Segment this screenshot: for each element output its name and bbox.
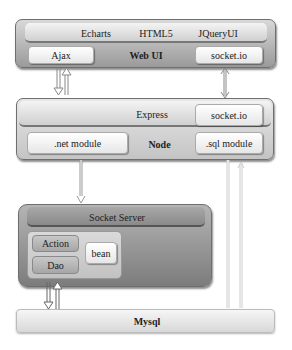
tech-html5: HTML5 xyxy=(131,24,181,42)
node-layer: Express socket.io .net module Node .sql … xyxy=(16,98,274,160)
web-ui-layer: Echarts HTML5 JQueryUI Ajax Web UI socke… xyxy=(15,19,276,68)
mysql-title: Mysql xyxy=(117,312,177,330)
mysql-layer: Mysql xyxy=(16,309,275,333)
sql-module-box: .sql module xyxy=(195,132,263,154)
socket-server-title: Socket Server xyxy=(69,208,165,226)
sql-mysql-arrows xyxy=(222,160,246,310)
socket-server-layer: Socket Server Action Dao bean xyxy=(18,204,212,287)
bean-box: bean xyxy=(85,242,117,264)
web-ui-title: Web UI xyxy=(116,46,176,64)
dao-box: Dao xyxy=(32,256,79,274)
ajax-express-arrows xyxy=(50,68,74,96)
net-to-socket-server-arrow xyxy=(74,160,88,204)
express-label: Express xyxy=(122,105,182,123)
ajax-box: Ajax xyxy=(28,46,94,64)
node-socketio-box: socket.io xyxy=(195,104,263,126)
dao-mysql-arrows xyxy=(40,282,64,310)
tech-echarts: Echarts xyxy=(71,24,121,42)
socketio-bidirectional-arrow xyxy=(218,68,232,98)
web-ui-socketio-box: socket.io xyxy=(195,46,263,64)
tech-jqueryui: JQueryUI xyxy=(188,24,248,42)
action-box: Action xyxy=(32,235,79,252)
node-title: Node xyxy=(137,135,182,153)
net-module-box: .net module xyxy=(27,132,128,154)
